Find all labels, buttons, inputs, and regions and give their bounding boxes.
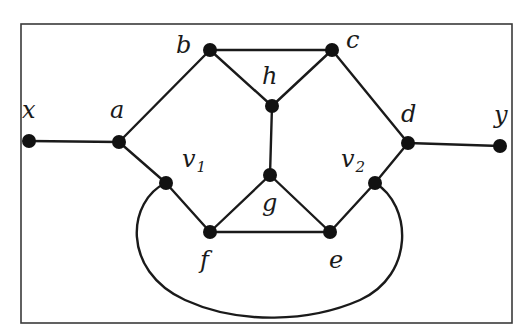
vertex-v1 bbox=[159, 176, 173, 190]
vertex-h bbox=[265, 99, 279, 113]
vertex-label-e: e bbox=[329, 246, 343, 274]
vertex-v2 bbox=[368, 176, 382, 190]
vertex-y bbox=[493, 139, 507, 153]
vertex-x bbox=[22, 134, 36, 148]
edge-v1-f bbox=[166, 183, 210, 232]
edge-a-v1 bbox=[119, 142, 166, 183]
vertex-label-g: g bbox=[262, 189, 277, 217]
labels-group: xabchdyv1v2gfe bbox=[22, 26, 508, 274]
vertex-label-d: d bbox=[401, 100, 416, 128]
vertex-e bbox=[323, 225, 337, 239]
vertex-c bbox=[325, 43, 339, 57]
edge-d-y bbox=[408, 143, 500, 146]
edge-a-b bbox=[119, 50, 210, 142]
vertex-a bbox=[112, 135, 126, 149]
edge-c-h bbox=[272, 50, 332, 106]
edge-c-d bbox=[332, 50, 408, 143]
vertex-b bbox=[203, 43, 217, 57]
vertex-label-a: a bbox=[110, 96, 124, 124]
vertex-label-x: x bbox=[22, 96, 36, 124]
edge-d-v2 bbox=[375, 143, 408, 183]
edge-h-g bbox=[270, 106, 272, 175]
vertex-label-c: c bbox=[346, 26, 359, 54]
vertex-label-y: y bbox=[493, 101, 508, 129]
edge-g-f bbox=[210, 175, 270, 232]
vertex-label-v1: v1 bbox=[182, 145, 206, 176]
edge-e-v2 bbox=[330, 183, 375, 232]
vertex-label-b: b bbox=[176, 31, 191, 59]
vertex-label-f: f bbox=[198, 246, 213, 274]
graph-diagram: xabchdyv1v2gfe bbox=[0, 0, 526, 330]
vertex-label-h: h bbox=[262, 62, 277, 90]
vertex-label-v2: v2 bbox=[341, 145, 365, 176]
vertex-g bbox=[263, 168, 277, 182]
edge-g-e bbox=[270, 175, 330, 232]
vertex-f bbox=[203, 225, 217, 239]
vertex-d bbox=[401, 136, 415, 150]
edge-x-a bbox=[29, 141, 119, 142]
